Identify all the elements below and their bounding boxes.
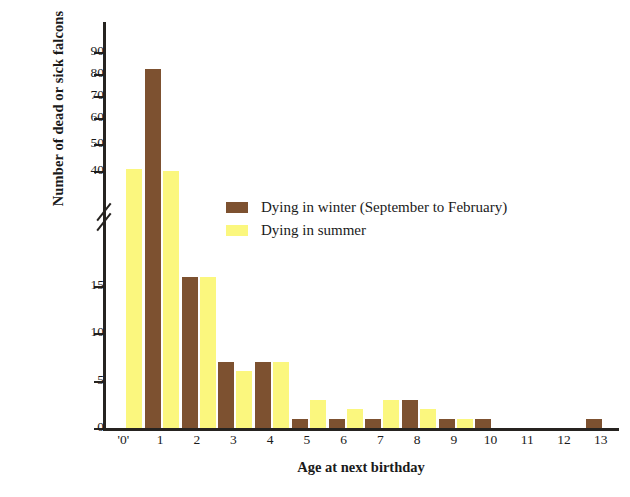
bar-winter-10 — [475, 419, 491, 428]
x-tick-label-12: 12 — [546, 433, 583, 447]
x-tick-label-9: 9 — [435, 433, 472, 447]
bar-winter-1 — [145, 69, 161, 428]
legend-label-winter: Dying in winter (September to February) — [261, 199, 507, 216]
y-tick-10: 10 — [0, 333, 104, 334]
bar-winter-8 — [402, 400, 418, 428]
y-axis-title: Number of dead or sick falcons — [50, 0, 67, 259]
bar-group — [582, 22, 619, 428]
bar-summer-3 — [236, 371, 252, 428]
x-tick-label-11: 11 — [509, 433, 546, 447]
x-tick-label-1: 1 — [142, 433, 179, 447]
y-tick-0: 0 — [0, 428, 104, 429]
x-axis-line — [103, 428, 619, 431]
bar-summer-4 — [273, 362, 289, 428]
y-tick-label-15: 15 — [64, 278, 104, 292]
x-tick-label-4: 4 — [252, 433, 289, 447]
bar-chart: Number of dead or sick falcons 90 80 70 … — [0, 0, 630, 497]
x-axis-title: Age at next birthday — [103, 459, 619, 476]
bar-group — [178, 22, 215, 428]
y-tick-label-90: 90 — [64, 44, 104, 58]
y-tick-40: 40 — [0, 171, 104, 172]
bar-winter-5 — [292, 419, 308, 428]
bar-group — [105, 22, 142, 428]
bar-winter-6 — [329, 419, 345, 428]
y-tick-70: 70 — [0, 96, 104, 97]
y-tick-90: 90 — [0, 52, 104, 53]
bar-winter-9 — [439, 419, 455, 428]
x-tick-label-13: 13 — [582, 433, 619, 447]
legend-item-winter: Dying in winter (September to February) — [226, 196, 507, 219]
y-tick-label-10: 10 — [64, 325, 104, 339]
y-tick-5: 5 — [0, 381, 104, 382]
bar-group — [142, 22, 179, 428]
legend-swatch-summer-icon — [226, 225, 248, 236]
y-tick-80: 80 — [0, 74, 104, 75]
x-tick-label-2: 2 — [178, 433, 215, 447]
bar-summer-0 — [126, 169, 142, 428]
bar-winter-7 — [365, 419, 381, 428]
y-tick-label-5: 5 — [64, 373, 104, 387]
bar-winter-3 — [218, 362, 234, 428]
legend: Dying in winter (September to February) … — [226, 196, 507, 242]
y-tick-label-80: 80 — [64, 66, 104, 80]
bar-summer-2 — [200, 277, 216, 428]
x-tick-label-0: '0' — [105, 433, 142, 447]
bar-summer-9 — [457, 419, 473, 428]
bar-summer-7 — [383, 400, 399, 428]
x-tick-label-10: 10 — [472, 433, 509, 447]
bar-summer-1 — [163, 171, 179, 428]
bar-winter-13 — [586, 419, 602, 428]
bar-group — [509, 22, 546, 428]
legend-label-summer: Dying in summer — [261, 222, 366, 239]
x-tick-label-6: 6 — [325, 433, 362, 447]
bar-winter-2 — [182, 277, 198, 428]
y-tick-label-40: 40 — [64, 163, 104, 177]
bar-winter-4 — [255, 362, 271, 428]
y-tick-label-0: 0 — [64, 420, 104, 434]
legend-swatch-winter-icon — [226, 202, 248, 213]
legend-item-summer: Dying in summer — [226, 219, 507, 242]
y-tick-label-50: 50 — [64, 136, 104, 150]
x-tick-label-5: 5 — [289, 433, 326, 447]
bar-summer-5 — [310, 400, 326, 428]
bar-group — [546, 22, 583, 428]
y-tick-15: 15 — [0, 286, 104, 287]
x-tick-label-8: 8 — [399, 433, 436, 447]
y-tick-label-70: 70 — [64, 88, 104, 102]
bar-summer-8 — [420, 409, 436, 428]
y-tick-60: 60 — [0, 118, 104, 119]
bar-summer-6 — [347, 409, 363, 428]
x-tick-label-7: 7 — [362, 433, 399, 447]
y-tick-label-60: 60 — [64, 110, 104, 124]
y-tick-50: 50 — [0, 144, 104, 145]
x-tick-label-3: 3 — [215, 433, 252, 447]
